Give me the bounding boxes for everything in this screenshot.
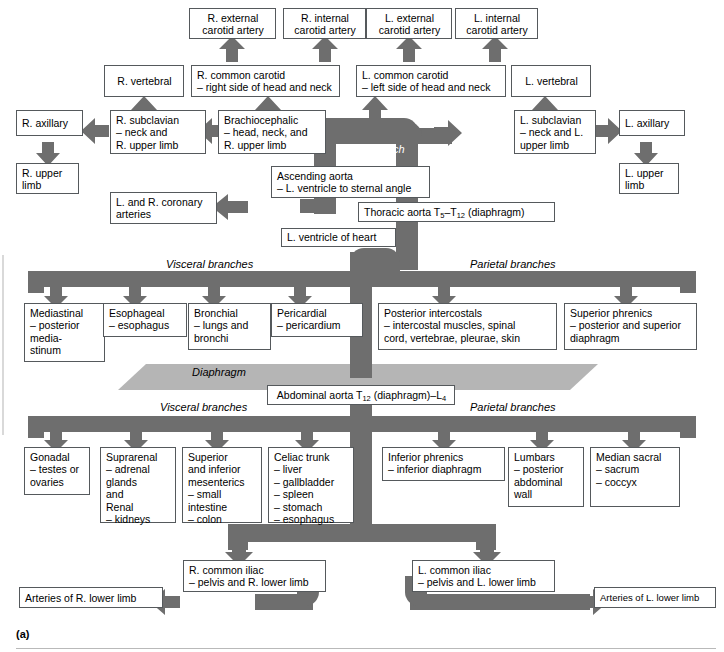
arrow-up-r-external-carotid [219,36,245,62]
vessel-coronary-stub [300,199,322,213]
box-gonadal: Gonadal – testes or ovaries [24,447,90,495]
box-l-subclavian: L. subclavian – neck and L. upper limb [514,110,596,154]
box-arteries-l-lower-limb: Arteries of L. lower limb [594,587,716,608]
abdominal-parietal-branches-label: Parietal branches [470,401,556,413]
box-mesenterics: Superior and inferior mesenterics – smal… [182,447,262,523]
box-arteries-r-lower-limb: Arteries of R. lower limb [19,587,163,608]
box-r-axillary: R. axillary [16,110,83,136]
box-abdominal-aorta: Abdominal aorta T12 (diaphragm)–L4 [267,385,455,405]
arrow-up-l-external-carotid [396,36,422,62]
vessel-parietal-right-end [680,271,696,293]
box-r-internal-carotid-artery: R. internal carotid artery [283,8,366,39]
arrow-left-to-r-axillary [81,118,109,144]
box-l-ventricle-of-heart: L. ventricle of heart [281,228,396,247]
abdominal-aorta-text-1: Abdominal aorta T [277,389,363,401]
arrow-up-l-internal-carotid [482,36,508,62]
box-inferior-phrenics: Inferior phrenics – inferior diaphragm [382,447,505,481]
thoracic-aorta-text-3: (diaphragm) [465,206,525,218]
thoracic-aorta-text-2: –T [444,206,456,218]
arrow-right-to-l-subclavian [434,120,462,146]
vessel-visceral-left-end [28,271,44,293]
figure-part-label: (a) [16,628,29,640]
box-l-common-iliac: L. common iliac – pelvis and L. lower li… [412,560,555,592]
abdominal-aorta-text-2: (diaphragm)–L [371,389,442,401]
box-posterior-intercostals: Posterior intercostals – intercostal mus… [378,303,557,350]
box-pericardial: Pericardial – pericardium [271,303,363,337]
box-r-common-carotid: R. common carotid – right side of head a… [191,65,340,97]
vessel-abd-visceral-left-end [28,416,44,438]
box-brachiocephalic: Brachiocephalic – head, neck, and R. upp… [218,110,326,154]
box-celiac-trunk: Celiac trunk – liver – gallbladder – spl… [268,447,354,523]
abdominal-aorta-sub-2: 4 [442,394,446,403]
box-r-vertebral: R. vertebral [104,65,184,97]
thoracic-aorta-text-1: Thoracic aorta T [364,206,440,218]
box-superior-phrenics: Superior phrenics – posterior and superi… [564,303,697,350]
aorta-branches-flowchart: Diaphragm Aortic arch Visceral branches … [0,0,724,652]
arrow-up-r-internal-carotid [312,36,338,62]
box-lumbars: Lumbars – posterior abdominal wall [508,447,584,507]
arrow-right-to-l-axillary [594,118,622,144]
box-l-common-carotid: L. common carotid – left side of head an… [356,65,506,97]
vessel-arch-right-corner [396,122,422,144]
thoracic-aorta-sub-2: 12 [457,211,465,220]
scan-artifact-bottom [16,648,716,649]
aortic-arch-label: Aortic arch [352,143,405,155]
box-ascending-aorta: Ascending aorta – L. ventricle to sterna… [271,166,430,198]
arrow-left-to-coronary-arteries [212,194,248,220]
box-thoracic-aorta: Thoracic aorta T5–T12 (diaphragm) [358,202,555,222]
vessel-thoracic-parietal-manifold [372,271,696,287]
box-bronchial: Bronchial – lungs and bronchi [188,303,271,350]
box-coronary-arteries: L. and R. coronary arteries [110,192,217,224]
box-esophageal: Esophageal – esophagus [103,303,187,337]
box-l-internal-carotid-artery: L. internal carotid artery [455,8,538,39]
vessel-thoracic-visceral-manifold [28,271,358,287]
box-r-subclavian: R. subclavian – neck and R. upper limb [110,110,206,154]
vessel-abd-parietal-right-end [680,416,696,438]
box-l-vertebral: L. vertebral [511,65,591,97]
box-r-common-iliac: R. common iliac – pelvis and R. lower li… [183,560,326,592]
box-l-upper-limb: L. upper limb [619,163,679,194]
box-l-external-carotid-artery: L. external carotid artery [366,8,452,39]
abdominal-visceral-branches-label: Visceral branches [160,401,247,413]
box-median-sacral: Median sacral – sacrum – coccyx [590,447,680,507]
thoracic-parietal-branches-label: Parietal branches [470,258,556,270]
box-suprarenal-renal: Suprarenal – adrenal glands and Renal – … [100,447,176,523]
vessel-l-iliac-to-limb [410,594,590,610]
thoracic-visceral-branches-label: Visceral branches [166,258,253,270]
scan-artifact-left [2,255,4,435]
box-r-upper-limb: R. upper limb [16,163,79,194]
box-r-external-carotid-artery: R. external carotid artery [189,8,276,39]
diaphragm-label: Diaphragm [192,366,246,378]
box-mediastinal: Mediastinal – posterior media- stinum [24,303,105,362]
box-l-axillary: L. axillary [619,110,685,136]
arrow-up-l-common-carotid [362,96,388,124]
abdominal-aorta-sub-1: 12 [362,394,370,403]
vessel-iliac-bifurcation [228,524,496,542]
